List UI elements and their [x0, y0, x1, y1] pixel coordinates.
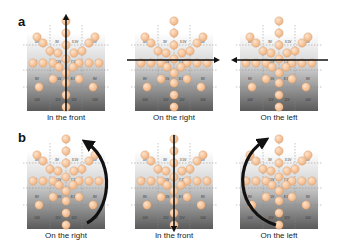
svg-text:10V: 10V	[247, 98, 254, 102]
svg-text:3.5V: 3.5V	[285, 40, 292, 44]
svg-text:11V: 11V	[163, 98, 169, 102]
svg-text:10V: 10V	[247, 216, 254, 220]
panel-b-front: 3V3.5V4V4V7V7.5V7.5V7V8V8.5V8.5V8V10V11V…	[133, 133, 215, 233]
svg-text:10V: 10V	[142, 98, 149, 102]
panel-a-right: 3V3.5V4V4V7V7.5V7.5V7V8V8.5V8.5V8V10V11V…	[133, 15, 215, 115]
svg-text:11V: 11V	[284, 98, 290, 102]
svg-text:11V: 11V	[179, 216, 185, 220]
crystal-diagram: 3V3.5V4V4V7V7.5V7.5V7V8V8.5V8.5V8V10V11V…	[133, 133, 215, 233]
svg-text:11V: 11V	[55, 216, 61, 220]
svg-text:11V: 11V	[284, 216, 290, 220]
svg-text:10V: 10V	[92, 98, 99, 102]
svg-text:10V: 10V	[34, 98, 41, 102]
panel-b-left: 3V3.5V4V4V7V7.5V7.5V7V8V8.5V8.5V8V10V11V…	[238, 133, 320, 233]
svg-text:11V: 11V	[268, 216, 274, 220]
crystal-diagram: 3V3.5V4V4V7V7.5V7.5V7V8V8.5V8.5V8V10V11V…	[25, 133, 107, 233]
svg-text:11V: 11V	[71, 216, 77, 220]
caption-b-right: On the right	[16, 231, 116, 240]
caption-a-front: In the front	[16, 113, 116, 122]
crystal-diagram: 3V3.5V4V4V7V7.5V7.5V7V8V8.5V8.5V8V10V11V…	[238, 15, 320, 115]
svg-text:10V: 10V	[305, 98, 312, 102]
crystal-diagram: 3V3.5V4V4V7V7.5V7.5V7V8V8.5V8.5V8V10V11V…	[133, 15, 215, 115]
svg-text:3.5V: 3.5V	[180, 158, 187, 162]
svg-text:10V: 10V	[200, 98, 207, 102]
svg-text:3.5V: 3.5V	[72, 158, 79, 162]
caption-b-left: On the left	[229, 231, 329, 240]
svg-text:11V: 11V	[55, 98, 61, 102]
svg-text:3.5V: 3.5V	[72, 40, 79, 44]
svg-text:10V: 10V	[305, 216, 312, 220]
caption-b-front: In the front	[124, 231, 224, 240]
svg-text:10V: 10V	[200, 216, 207, 220]
svg-text:3.5V: 3.5V	[285, 158, 292, 162]
svg-text:11V: 11V	[179, 98, 185, 102]
panel-a-left: 3V3.5V4V4V7V7.5V7.5V7V8V8.5V8.5V8V10V11V…	[238, 15, 320, 115]
svg-text:10V: 10V	[34, 216, 41, 220]
svg-text:11V: 11V	[163, 216, 169, 220]
svg-text:11V: 11V	[268, 98, 274, 102]
svg-text:11V: 11V	[71, 98, 77, 102]
panel-a-front: 3V3.5V4V4V7V7.5V7.5V7V8V8.5V8.5V8V10V11V…	[25, 15, 107, 115]
caption-a-right: On the right	[124, 113, 224, 122]
caption-a-left: On the left	[229, 113, 329, 122]
svg-text:10V: 10V	[142, 216, 149, 220]
crystal-diagram: 3V3.5V4V4V7V7.5V7.5V7V8V8.5V8.5V8V10V11V…	[238, 133, 320, 233]
panel-b-right: 3V3.5V4V4V7V7.5V7.5V7V8V8.5V8.5V8V10V11V…	[25, 133, 107, 233]
crystal-diagram: 3V3.5V4V4V7V7.5V7.5V7V8V8.5V8.5V8V10V11V…	[25, 15, 107, 115]
svg-text:3.5V: 3.5V	[180, 40, 187, 44]
